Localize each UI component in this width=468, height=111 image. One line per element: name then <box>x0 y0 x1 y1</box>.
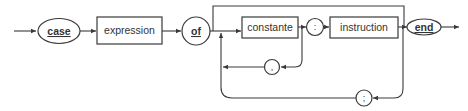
of-keyword-node: of <box>182 17 210 45</box>
of-label: of <box>191 25 201 37</box>
end-keyword-node: end <box>407 19 441 35</box>
case-keyword-node: case <box>38 19 80 44</box>
end-label: end <box>415 21 434 33</box>
case-statement-syntax-diagram: case expression of constante : instructi… <box>0 0 468 111</box>
comma-symbol-node: , <box>265 60 280 75</box>
semicolon-symbol-node: ; <box>356 90 372 106</box>
constante-label: constante <box>247 21 293 33</box>
instruction-node: instruction <box>330 17 398 38</box>
case-label: case <box>47 25 71 37</box>
semicolon-loop-return-path <box>221 33 356 98</box>
colon-symbol-node: : <box>307 19 324 36</box>
instruction-label: instruction <box>340 21 388 33</box>
comma-label: , <box>271 62 274 72</box>
expression-node: expression <box>97 17 162 44</box>
expression-label: expression <box>104 24 155 36</box>
colon-label: : <box>314 22 317 32</box>
semicolon-label: ; <box>363 93 366 103</box>
constante-node: constante <box>242 17 298 38</box>
